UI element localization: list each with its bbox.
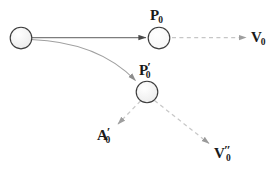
- label-a0-prime-subscript: 0: [106, 135, 111, 145]
- label-v0-prime-subscript: 0: [226, 153, 231, 163]
- label-v0-prime: V″0: [214, 145, 237, 161]
- label-p0-subscript: 0: [158, 15, 163, 25]
- diagram-canvas: [0, 0, 279, 173]
- p0prime-node: [136, 81, 158, 103]
- curved-displacement-arrow: [31, 40, 136, 81]
- p0-node: [148, 27, 170, 49]
- label-v0-subscript: 0: [261, 37, 266, 47]
- label-p0: P0: [150, 7, 164, 23]
- label-v0: V0: [251, 29, 267, 45]
- velocity-v0prime-arrow: [155, 101, 210, 144]
- vector-diagram: P0 V0 P′0 A′0 V″0: [0, 0, 279, 173]
- label-a0-prime: A′0: [97, 127, 116, 143]
- origin-node: [10, 27, 32, 49]
- acceleration-a0prime-arrow: [118, 101, 141, 124]
- label-p0-prime: P′0: [139, 62, 157, 78]
- label-p0-prime-subscript: 0: [146, 70, 151, 80]
